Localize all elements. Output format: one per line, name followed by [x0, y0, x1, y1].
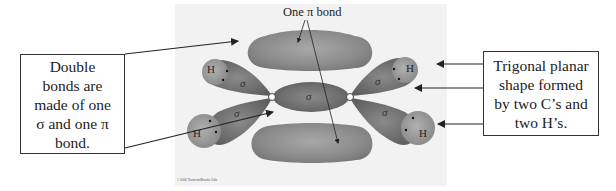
atom-label-h-upper-right: H	[406, 62, 414, 74]
h-orbital-lower-right	[401, 111, 435, 145]
carbon-atom-right	[347, 94, 354, 101]
copyright-notice: © 2004 Thomson/Brooks Cole	[177, 178, 217, 182]
trigonal-planar-callout-text: Trigonal planar shape formed by two C’s …	[493, 56, 588, 132]
left-arrow-top	[125, 41, 238, 54]
pi-bond-label: One π bond	[283, 5, 341, 20]
sigma-label-lower-right: σ	[382, 106, 387, 118]
atom-label-h-lower-right: H	[419, 127, 427, 139]
sigma-label-upper-left: σ	[240, 77, 245, 89]
pi-lobe-top	[248, 30, 373, 71]
sigma-label-lower-left: σ	[234, 107, 239, 119]
double-bond-callout-box: Double bonds are made of one σ and one π…	[20, 54, 125, 154]
h-orbital-upper-left	[202, 59, 228, 85]
trigonal-planar-callout-box: Trigonal planar shape formed by two C’s …	[483, 51, 599, 136]
atom-label-h-lower-left: H	[193, 127, 201, 139]
sigma-label-center: σ	[306, 90, 311, 102]
double-bond-callout-text: Double bonds are made of one σ and one π…	[34, 57, 111, 152]
sigma-label-upper-right: σ	[375, 75, 380, 87]
pi-lobe-bottom	[252, 123, 373, 163]
atom-label-h-upper-left: H	[207, 63, 215, 75]
h-orbital-upper-right	[392, 57, 418, 83]
diagram-canvas: One π bond H H H H σ σ σ σ σ Double bond…	[0, 0, 616, 191]
carbon-atom-left	[269, 94, 276, 101]
